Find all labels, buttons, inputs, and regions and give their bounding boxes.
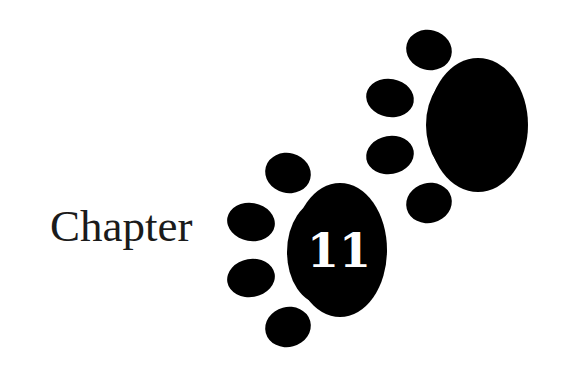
chapter-number: 11 (307, 224, 371, 278)
paw-print-icon: 11 (224, 148, 387, 353)
paw-print-icon (363, 25, 528, 229)
paw-prints: 11 (0, 0, 566, 390)
